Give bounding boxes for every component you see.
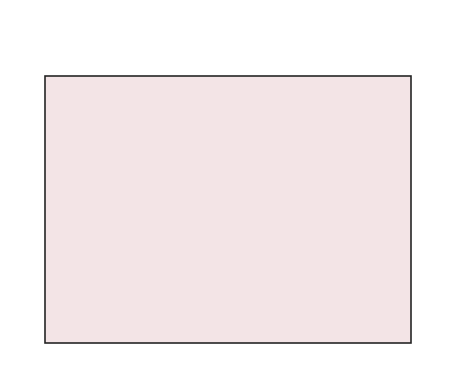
reflectivity-chart (0, 0, 461, 381)
plot-background (45, 76, 411, 343)
